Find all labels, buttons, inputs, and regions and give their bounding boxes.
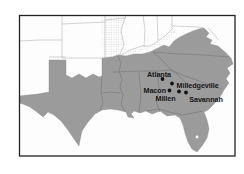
- city-dot-savannah: [184, 91, 188, 95]
- city-dot-milledgeville: [170, 82, 174, 86]
- city-label-savannah: Savannah: [189, 95, 223, 104]
- city-dot-millen: [177, 90, 181, 94]
- city-milledgeville: Milledgeville: [170, 81, 219, 90]
- city-label-millen: Millen: [155, 94, 175, 103]
- map-svg: Atlanta Milledgeville Macon Millen Savan…: [0, 0, 244, 174]
- city-dot-macon: [168, 89, 172, 93]
- map-figure: Atlanta Milledgeville Macon Millen Savan…: [0, 0, 244, 174]
- lake-okeechobee: [196, 136, 199, 139]
- city-label-atlanta: Atlanta: [147, 70, 172, 79]
- city-label-milledgeville: Milledgeville: [177, 81, 219, 90]
